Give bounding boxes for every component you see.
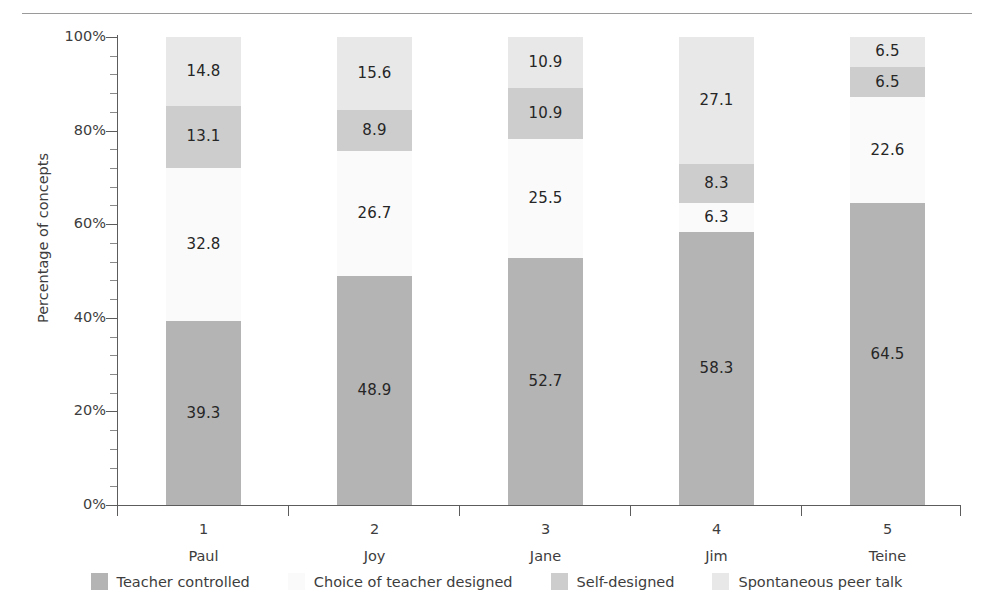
x-axis-tick <box>459 505 460 516</box>
x-axis-category-number: 4 <box>657 521 777 537</box>
bar-segment: 39.3 <box>166 321 241 505</box>
bar-segment: 6.5 <box>850 67 925 97</box>
x-axis-tick <box>288 505 289 516</box>
bar-segment-value-label: 26.7 <box>357 206 391 221</box>
bar-segment: 10.9 <box>508 37 583 88</box>
bar-segment: 22.6 <box>850 97 925 203</box>
y-axis-major-tick <box>106 505 117 506</box>
bar-segment: 8.3 <box>679 164 754 203</box>
legend-swatch-icon <box>91 573 108 590</box>
bar-segment-value-label: 52.7 <box>528 374 562 389</box>
clipped-header-text <box>22 0 972 4</box>
x-axis-category-name: Jane <box>486 548 606 564</box>
x-axis-category-name: Paul <box>144 548 264 564</box>
header-divider <box>22 13 972 14</box>
x-axis-tick <box>117 505 118 516</box>
bar-stack: 58.36.38.327.1 <box>679 37 754 505</box>
x-axis-category-number: 1 <box>144 521 264 537</box>
x-axis-tick <box>801 505 802 516</box>
bar-segment-value-label: 10.9 <box>528 55 562 70</box>
bar-segment: 32.8 <box>166 168 241 322</box>
bar-segment: 27.1 <box>679 37 754 164</box>
bar-segment: 25.5 <box>508 139 583 258</box>
bar-segment-value-label: 22.6 <box>870 143 904 158</box>
bar-segment: 52.7 <box>508 258 583 505</box>
plot-area: 39.332.813.114.848.926.78.915.652.725.51… <box>0 37 993 505</box>
bar-segment-value-label: 14.8 <box>186 64 220 79</box>
x-axis-category-name: Joy <box>315 548 435 564</box>
bar-segment: 48.9 <box>337 276 412 505</box>
chart-legend: Teacher controlledChoice of teacher desi… <box>0 573 993 590</box>
bar-segment: 15.6 <box>337 37 412 110</box>
bar-segment-value-label: 39.3 <box>186 406 220 421</box>
legend-label: Choice of teacher designed <box>314 574 513 590</box>
bar-segment-value-label: 48.9 <box>357 383 391 398</box>
x-axis-category-name: Jim <box>657 548 777 564</box>
legend-item[interactable]: Teacher controlled <box>91 573 250 590</box>
legend-swatch-icon <box>712 573 729 590</box>
bar-segment-value-label: 8.3 <box>704 176 728 191</box>
bar-segment-value-label: 15.6 <box>357 66 391 81</box>
bar-segment-value-label: 6.5 <box>875 44 899 59</box>
bar-segment-value-label: 8.9 <box>362 123 386 138</box>
stacked-bar-chart-figure: Percentage of concepts 0%20%40%60%80%100… <box>0 0 993 611</box>
x-axis-tick <box>960 505 961 516</box>
bar-segment-value-label: 6.3 <box>704 210 728 225</box>
bar-segment: 6.3 <box>679 203 754 232</box>
legend-label: Self-designed <box>577 574 675 590</box>
bar-stack: 64.522.66.56.5 <box>850 37 925 505</box>
bar-stack: 52.725.510.910.9 <box>508 37 583 505</box>
bar-segment: 58.3 <box>679 232 754 505</box>
legend-item[interactable]: Self-designed <box>551 573 675 590</box>
legend-swatch-icon <box>551 573 568 590</box>
bar-segment: 26.7 <box>337 151 412 276</box>
bar-segment: 8.9 <box>337 110 412 152</box>
legend-item[interactable]: Spontaneous peer talk <box>712 573 902 590</box>
x-axis-line <box>117 505 960 506</box>
bar-segment: 10.9 <box>508 88 583 139</box>
bar-segment-value-label: 27.1 <box>699 93 733 108</box>
x-axis-tick <box>630 505 631 516</box>
legend-label: Teacher controlled <box>117 574 250 590</box>
bar-segment: 13.1 <box>166 106 241 167</box>
bar-segment-value-label: 10.9 <box>528 106 562 121</box>
bar-segment-value-label: 13.1 <box>186 129 220 144</box>
bar-stack: 39.332.813.114.8 <box>166 37 241 505</box>
bar-segment-value-label: 64.5 <box>870 347 904 362</box>
bar-stack: 48.926.78.915.6 <box>337 37 412 505</box>
bar-segment: 14.8 <box>166 37 241 106</box>
x-axis-category-number: 3 <box>486 521 606 537</box>
bar-segment-value-label: 58.3 <box>699 361 733 376</box>
bar-segment-value-label: 32.8 <box>186 237 220 252</box>
legend-item[interactable]: Choice of teacher designed <box>288 573 513 590</box>
bar-segment: 64.5 <box>850 203 925 505</box>
x-axis-category-name: Teine <box>828 548 948 564</box>
legend-swatch-icon <box>288 573 305 590</box>
bar-segment: 6.5 <box>850 37 925 67</box>
bar-segment-value-label: 6.5 <box>875 75 899 90</box>
x-axis-category-number: 5 <box>828 521 948 537</box>
legend-label: Spontaneous peer talk <box>738 574 902 590</box>
x-axis-category-number: 2 <box>315 521 435 537</box>
bar-segment-value-label: 25.5 <box>528 191 562 206</box>
